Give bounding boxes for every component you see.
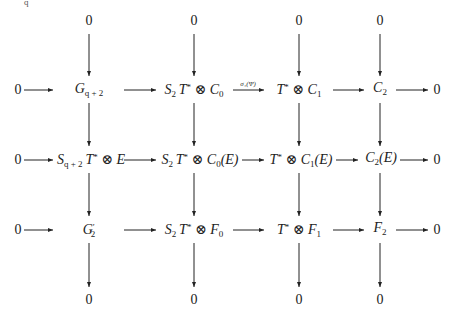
node-tstar-c1-e: T* ⊗ C1(E)	[270, 149, 333, 172]
zero-bottom-1: 0	[86, 292, 93, 308]
map-label-sigma: σ₁(Ψ)	[240, 80, 255, 88]
row2-left-zero: 0	[15, 152, 22, 168]
node-c2: C2	[373, 80, 387, 100]
node-sq2-tstar-e: Sq + 2 T* ⊗ E	[57, 149, 125, 172]
zero-top-2: 0	[191, 13, 198, 29]
node-c2-e: C2(E)	[365, 150, 397, 170]
commutative-diagram: q	[0, 0, 452, 318]
node-g-prime-2: G′2	[83, 219, 96, 242]
row3-left-zero: 0	[15, 222, 22, 238]
zero-top-4: 0	[377, 13, 384, 29]
node-tstar-f1: T* ⊗ F1	[277, 219, 321, 242]
zero-bottom-3: 0	[296, 292, 303, 308]
node-s2-tstar-f0: S2 T* ⊗ F0	[165, 219, 223, 242]
row2-right-zero: 0	[434, 152, 441, 168]
row3-right-zero: 0	[434, 222, 441, 238]
node-s2-tstar-c0-e: S2 T* ⊗ C0(E)	[161, 149, 238, 172]
row1-left-zero: 0	[15, 82, 22, 98]
zero-bottom-2: 0	[191, 292, 198, 308]
node-f2: F2	[373, 220, 386, 240]
node-s2-tstar-c0: S2 T* ⊗ C0	[164, 79, 223, 102]
node-tstar-c1: T* ⊗ C1	[277, 79, 322, 102]
zero-top-1: 0	[86, 13, 93, 29]
zero-top-3: 0	[296, 13, 303, 29]
row1-right-zero: 0	[434, 82, 441, 98]
node-g-q-plus-2: Gq + 2	[75, 81, 104, 101]
zero-bottom-4: 0	[377, 292, 384, 308]
